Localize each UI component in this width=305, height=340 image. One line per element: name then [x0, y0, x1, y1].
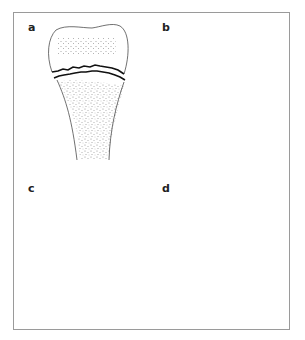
panel-label-b: b — [162, 22, 170, 33]
panel-label-a: a — [28, 22, 35, 33]
fracture-line-upper — [52, 65, 124, 74]
panel-a — [49, 24, 129, 160]
fracture-diagram — [0, 0, 305, 340]
fracture-line-lower — [54, 71, 125, 80]
epiphysis-texture — [58, 38, 116, 54]
panel-label-c: c — [28, 183, 35, 194]
panel-label-d: d — [162, 183, 170, 194]
metaphysis-texture — [58, 80, 124, 160]
